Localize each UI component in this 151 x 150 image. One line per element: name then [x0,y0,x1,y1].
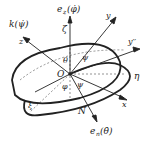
label-en-main: e [90,126,95,136]
euler-angles-diagram: k(ψ̇) z e z (φ̇) ζ y y′′ η θ ψ O φ ψ x ξ… [0,0,151,150]
label-origin: O [57,69,65,79]
label-eta: η [134,71,140,81]
label-theta: θ [63,56,68,65]
label-y: y [105,11,111,20]
label-zeta: ζ [62,24,68,34]
label-N: N [77,106,87,116]
label-phi: φ [62,82,68,91]
label-ez-arg: (φ̇) [67,4,81,14]
label-en-arg: (θ̇) [100,126,113,136]
label-psi2: ψ [77,80,84,89]
label-z: z [18,37,24,46]
label-k-psi: k(ψ̇) [9,19,29,29]
label-ez-main: e [57,4,62,14]
label-y-dprime: y′′ [127,37,136,46]
orbit-ellipse-1 [12,44,121,104]
label-xi: ξ [28,101,33,110]
label-psi: ψ [82,53,89,62]
label-x: x [122,100,127,109]
origin-point [68,72,72,76]
